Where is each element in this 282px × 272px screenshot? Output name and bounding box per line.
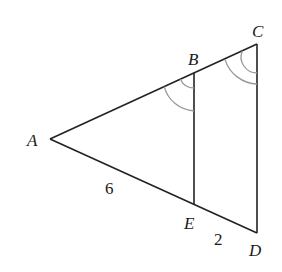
triangle-figure: A B C E D 6 2 bbox=[0, 0, 282, 272]
measure-ae: 6 bbox=[105, 179, 114, 198]
diagram-canvas: A B C E D 6 2 bbox=[0, 0, 282, 272]
label-c: C bbox=[252, 22, 264, 41]
label-d: D bbox=[248, 241, 262, 260]
segment-ac bbox=[50, 44, 257, 139]
label-e: E bbox=[183, 214, 195, 233]
label-a: A bbox=[26, 131, 38, 150]
segment-ad bbox=[50, 139, 257, 233]
measure-ed: 2 bbox=[214, 230, 223, 249]
label-b: B bbox=[188, 50, 199, 69]
